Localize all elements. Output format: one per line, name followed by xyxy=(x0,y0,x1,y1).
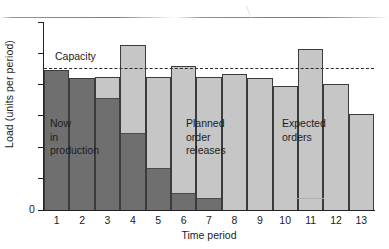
bar-segment-production xyxy=(147,168,170,210)
x-tick-label: 12 xyxy=(323,213,348,227)
x-tick-label: 11 xyxy=(298,213,323,227)
x-tick-label: 13 xyxy=(349,213,374,227)
bar-period-13 xyxy=(349,22,374,210)
bar-period-4 xyxy=(120,22,145,210)
bar-period-7 xyxy=(196,22,221,210)
x-tick-label: 8 xyxy=(222,213,247,227)
x-tick-label: 10 xyxy=(273,213,298,227)
bar-period-11 xyxy=(298,22,323,210)
annotation-line: in xyxy=(50,131,99,145)
page-header-rule xyxy=(0,17,389,18)
x-tick-label: 1 xyxy=(44,213,69,227)
bar-period-5 xyxy=(146,22,171,210)
x-tick-label: 6 xyxy=(171,213,196,227)
annotation-line: Now xyxy=(50,117,99,131)
x-tick-label: 5 xyxy=(146,213,171,227)
bar-segment-production xyxy=(172,193,195,210)
bar-segment-production xyxy=(197,198,220,210)
chart-canvas: Load (units per period) 0 xyxy=(0,0,389,249)
annotation-line: Planned xyxy=(186,117,226,131)
bar-segment-planned xyxy=(96,78,119,98)
annotation-planned-order-releases: Planned order releases xyxy=(186,117,226,158)
bar-period-6 xyxy=(171,22,196,210)
bar-segment-production xyxy=(121,133,144,210)
annotation-line: Expected xyxy=(282,117,326,131)
x-axis-line xyxy=(43,210,375,211)
bar-period-10 xyxy=(273,22,298,210)
bar-segment-planned xyxy=(147,78,170,168)
x-tick-label: 4 xyxy=(120,213,145,227)
bar-segment-expected xyxy=(324,85,347,210)
bar-segment-expected xyxy=(248,79,271,210)
x-tick-label: 9 xyxy=(247,213,272,227)
annotation-line: releases xyxy=(186,144,226,158)
bar-segment-planned xyxy=(121,46,144,133)
y-axis-title: Load (units per period) xyxy=(3,9,15,179)
bar-segment-production xyxy=(96,98,119,210)
scan-artifact-line xyxy=(296,198,324,199)
bar-period-3 xyxy=(95,22,120,210)
bar-segment-expected xyxy=(274,87,297,210)
bar-segment-expected xyxy=(223,75,246,210)
annotation-line: orders xyxy=(282,131,326,145)
bar-period-8 xyxy=(222,22,247,210)
capacity-reference-line xyxy=(44,68,374,69)
y-axis-zero-label: 0 xyxy=(29,203,35,215)
bar-segment-expected xyxy=(350,115,373,210)
bar-period-9 xyxy=(247,22,272,210)
x-tick-label: 3 xyxy=(95,213,120,227)
annotation-line: production xyxy=(50,144,99,158)
x-tick-label: 7 xyxy=(196,213,221,227)
x-axis-tick-labels: 1 2 3 4 5 6 7 8 9 10 11 12 13 xyxy=(44,213,374,227)
bar-period-12 xyxy=(323,22,348,210)
x-axis-title: Time period xyxy=(44,229,374,241)
scan-artifact-mark xyxy=(246,5,274,18)
capacity-label: Capacity xyxy=(55,50,96,62)
annotation-now-in-production: Now in production xyxy=(50,117,99,158)
annotation-expected-orders: Expected orders xyxy=(282,117,326,144)
x-tick-label: 2 xyxy=(69,213,94,227)
annotation-line: order xyxy=(186,131,226,145)
